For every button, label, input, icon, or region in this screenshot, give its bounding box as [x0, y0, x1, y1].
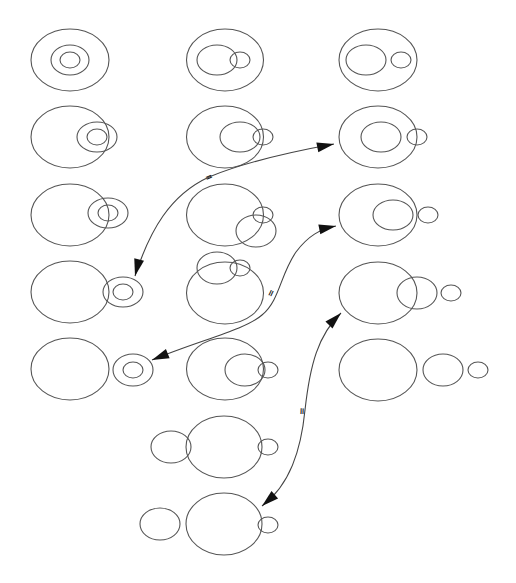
- outer-ellipse: [31, 184, 109, 246]
- middle-ellipse: [51, 45, 89, 75]
- middle-ellipse: [220, 122, 260, 152]
- outer-ellipse: [187, 262, 264, 324]
- configuration-r2c3: [339, 106, 427, 168]
- middle-ellipse: [151, 431, 191, 463]
- equality-marker: =: [297, 407, 307, 415]
- outer-ellipse: [187, 29, 264, 91]
- small-ellipse: [258, 362, 278, 378]
- small-ellipse: [60, 52, 80, 68]
- arrowhead-icon: [316, 142, 334, 152]
- middle-ellipse: [236, 215, 276, 247]
- arrow-1: =: [134, 142, 334, 276]
- configuration-r4c2: [187, 252, 264, 324]
- middle-ellipse: [225, 354, 265, 386]
- configuration-r2c1: [31, 106, 117, 168]
- configuration-r3c3: [339, 184, 438, 246]
- configuration-r1c2: [187, 29, 264, 91]
- configuration-r4c1: [31, 261, 143, 323]
- small-ellipse: [113, 284, 133, 300]
- small-ellipse: [87, 129, 107, 145]
- arrow-curve: [135, 144, 334, 276]
- configuration-r5c2: [187, 338, 279, 400]
- arrow-3: =: [262, 313, 341, 506]
- small-ellipse: [441, 285, 461, 301]
- small-ellipse: [230, 52, 250, 68]
- small-ellipse: [123, 362, 143, 378]
- outer-ellipse: [31, 106, 109, 168]
- middle-ellipse: [113, 354, 153, 386]
- outer-ellipse: [339, 262, 417, 324]
- configuration-r4c3: [339, 262, 461, 324]
- outer-ellipse: [186, 493, 262, 555]
- configuration-r2c2: [187, 106, 274, 168]
- diagram-canvas: ===: [0, 0, 516, 583]
- outer-ellipse: [339, 29, 417, 91]
- outer-ellipse: [339, 106, 417, 168]
- middle-ellipse: [423, 354, 463, 386]
- configuration-r1c3: [339, 29, 417, 91]
- configuration-r3c1: [31, 184, 128, 246]
- arrowhead-icon: [152, 349, 170, 360]
- equality-marker: =: [204, 171, 215, 183]
- configuration-r7c2: [140, 493, 278, 555]
- small-ellipse: [258, 439, 278, 455]
- configuration-r1c1: [31, 29, 109, 91]
- outer-ellipse: [187, 106, 264, 168]
- outer-ellipse: [31, 261, 109, 323]
- configuration-group: [31, 29, 488, 555]
- outer-ellipse: [339, 184, 417, 246]
- arrowhead-icon: [325, 313, 341, 329]
- configuration-r6c2: [151, 416, 278, 478]
- small-ellipse: [258, 517, 278, 533]
- small-ellipse: [468, 362, 488, 378]
- middle-ellipse: [140, 508, 180, 540]
- arrow-group: ===: [134, 142, 341, 506]
- middle-ellipse: [361, 122, 401, 152]
- middle-ellipse: [197, 45, 237, 75]
- arrowhead-icon: [134, 258, 144, 276]
- arrow-2: =: [152, 224, 336, 360]
- middle-ellipse: [346, 45, 386, 75]
- outer-ellipse: [339, 339, 417, 401]
- outer-ellipse: [31, 338, 109, 400]
- small-ellipse: [391, 52, 411, 68]
- configuration-r5c1: [31, 338, 153, 400]
- arrowhead-icon: [318, 224, 336, 234]
- outer-ellipse: [186, 416, 262, 478]
- outer-ellipse: [31, 29, 109, 91]
- arrow-curve: [152, 226, 336, 360]
- middle-ellipse: [373, 200, 413, 230]
- configuration-r5c3: [339, 339, 488, 401]
- small-ellipse: [418, 207, 438, 223]
- middle-ellipse: [77, 122, 117, 152]
- configuration-r3c2: [187, 184, 277, 247]
